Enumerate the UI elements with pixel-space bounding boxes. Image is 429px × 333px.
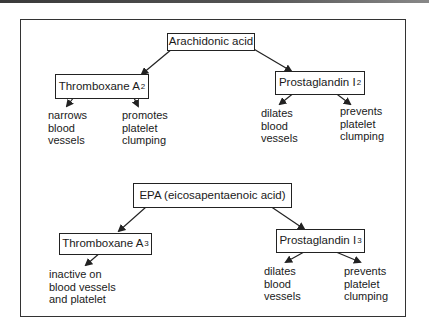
arrow-pgi3-effect-2: [336, 252, 360, 262]
node-prostaglandin-i3: Prostaglandin I3: [276, 229, 365, 253]
node-label: Arachidonic acid: [169, 36, 253, 48]
arrow-arachidonic-to-prostaglandin: [252, 48, 291, 71]
effect-prevents-platelet-clumping: prevents platelet clumping: [340, 105, 384, 143]
arrow-epa-to-prostaglandin: [270, 206, 304, 229]
node-label: Prostaglandin I: [279, 235, 356, 247]
effect-dilates-blood-vessels-epa: dilates blood vessels: [264, 265, 301, 303]
effect-narrows-blood-vessels: narrows blood vessels: [48, 109, 87, 147]
effect-promotes-platelet-clumping: promotes platelet clumping: [122, 109, 168, 147]
effect-inactive: inactive on blood vessels and platelet: [49, 268, 116, 306]
subscript: 3: [144, 240, 148, 248]
node-epa: EPA (eicosapentaenoic acid): [133, 183, 292, 208]
effect-dilates-blood-vessels: dilates blood vessels: [261, 107, 298, 145]
node-prostaglandin-i2: Prostaglandin I2: [275, 71, 365, 95]
node-label: EPA (eicosapentaenoic acid): [139, 190, 285, 202]
node-label: Thromboxane A: [62, 238, 143, 250]
subscript: 2: [357, 79, 361, 87]
node-thromboxane-a3: Thromboxane A3: [59, 233, 152, 255]
node-arachidonic-acid: Arachidonic acid: [167, 33, 255, 51]
node-label: Thromboxane A: [59, 81, 140, 93]
effect-prevents-platelet-clumping-epa: prevents platelet clumping: [344, 265, 388, 303]
arrow-arachidonic-to-thromboxane: [142, 49, 172, 74]
subscript: 2: [141, 83, 145, 91]
node-label: Prostaglandin I: [279, 77, 356, 89]
subscript: 3: [357, 237, 361, 245]
node-thromboxane-a2: Thromboxane A2: [55, 74, 149, 99]
arrow-epa-to-thromboxane: [119, 207, 146, 231]
arrow-pgi3-effect-1: [286, 252, 304, 262]
